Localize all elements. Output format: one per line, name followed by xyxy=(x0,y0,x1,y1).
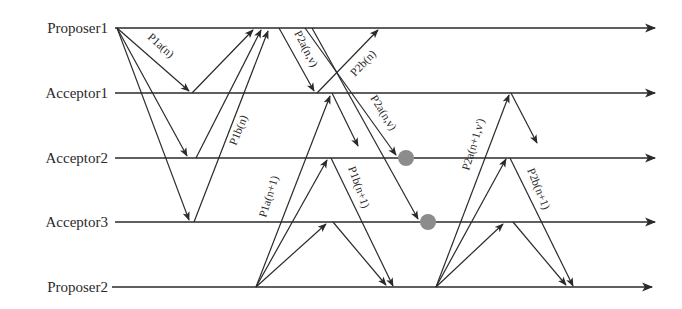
lost-message-marker-acceptor3 xyxy=(420,214,436,230)
label-p1a-n1: P1a(n+1) xyxy=(256,174,281,219)
paxos-sequence-diagram: Proposer1 Acceptor1 Acceptor2 Acceptor3 … xyxy=(0,0,682,309)
lost-message-marker-acceptor2 xyxy=(398,150,414,166)
label-p2a-nv-1: P2a(n,v) xyxy=(291,28,320,69)
lane-label-acceptor1: Acceptor1 xyxy=(46,85,108,101)
label-p2b-n: P2b(n) xyxy=(348,47,379,79)
lane-label-acceptor3: Acceptor3 xyxy=(46,214,108,230)
lane-label-proposer2: Proposer2 xyxy=(47,279,108,295)
p1a-n-messages xyxy=(117,28,189,220)
lane-label-acceptor2: Acceptor2 xyxy=(46,150,108,166)
label-p1b-n1: P1b(n+1) xyxy=(345,165,372,211)
label-p2a-nv-2: P2a(n,v) xyxy=(367,93,399,133)
label-p2b-n1: P2b(n+1) xyxy=(524,166,552,211)
lane-label-proposer1: Proposer1 xyxy=(47,20,108,36)
label-p1b-n: P1b(n) xyxy=(227,113,251,147)
p1b-n-messages xyxy=(192,30,268,222)
